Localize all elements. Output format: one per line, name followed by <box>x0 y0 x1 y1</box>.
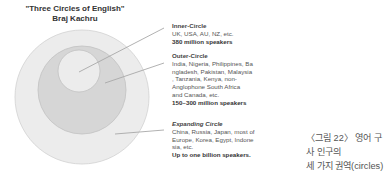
figure-caption: 〈그림 22〉 영어 구사 인구의 세 가지 권역(circles) <box>306 131 386 173</box>
caption-line-1: 〈그림 22〉 영어 구사 인구의 <box>306 131 386 159</box>
outer-circle-countries-2: ngladesh, Pakistan, Malaysia <box>172 68 297 76</box>
caption-line-2: 세 가지 권역(circles) <box>306 159 386 173</box>
outer-circle-countries-5: and Canada, etc. <box>172 91 297 99</box>
inner-circle-countries: UK, USA, AU, NZ, etc. <box>172 30 297 38</box>
expanding-circle-countries-1: China, Russia, Japan, most of <box>172 128 297 136</box>
inner-circle-speakers: 380 million speakers <box>172 38 297 46</box>
outer-circle-name: Outer-Circle <box>172 52 297 60</box>
inner-circle-shape <box>58 50 100 92</box>
expanding-circle-name: Expanding Circle <box>172 120 297 128</box>
expanding-circle-countries-2: Europe, Korea, Egypt, Indone <box>172 136 297 144</box>
inner-circle-label: Inner-Circle UK, USA, AU, NZ, etc. 380 m… <box>172 22 297 45</box>
outer-circle-countries-1: India, Nigeria, Philippines, Ba <box>172 60 297 68</box>
outer-circle-countries-3: , Tanzania, Kenya, non- <box>172 75 297 83</box>
expanding-circle-countries-3: sia, etc. <box>172 143 297 151</box>
outer-circle-label: Outer-Circle India, Nigeria, Philippines… <box>172 52 297 107</box>
outer-circle-speakers: 150~300 million speakers <box>172 99 297 107</box>
outer-circle-countries-4: Anglophone South Africa <box>172 83 297 91</box>
expanding-circle-label: Expanding Circle China, Russia, Japan, m… <box>172 120 297 159</box>
inner-circle-name: Inner-Circle <box>172 22 297 30</box>
expanding-circle-speakers: Up to one billion speakers. <box>172 151 297 159</box>
